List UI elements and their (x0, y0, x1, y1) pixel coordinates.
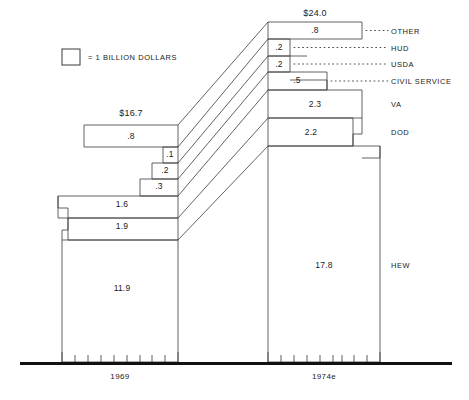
value-1969-hew: 11.9 (114, 283, 131, 293)
value-1969-dod: 1.9 (116, 221, 128, 231)
step-connector-1974-a (353, 118, 362, 146)
category-label-civil-service: CIVIL SERVICE (391, 77, 452, 86)
value-1974-other: .8 (311, 25, 319, 35)
legend-swatch-icon (62, 49, 80, 65)
total-1974: $24.0 (303, 8, 327, 18)
category-label-hud: HUD (391, 44, 409, 53)
value-1969-usda: .2 (161, 165, 169, 175)
connector-hud (178, 39, 268, 147)
bar-1969-hew (62, 240, 178, 362)
value-1969-hud: .1 (166, 149, 174, 159)
value-1974-hew: 17.8 (315, 260, 332, 270)
total-1969: $16.7 (119, 108, 143, 118)
category-label-va: VA (391, 100, 402, 109)
value-1969-va: 1.6 (116, 199, 128, 209)
category-label-other: OTHER (391, 27, 420, 36)
chart-container: = 1 BILLION DOLLARS $16.7 $24.0 .8 .1 .2… (0, 0, 469, 400)
value-1974-hud: .2 (275, 42, 283, 52)
category-label-usda: USDA (391, 60, 414, 69)
connector-civil-service (178, 72, 268, 179)
step-connector-1969-b (58, 196, 68, 218)
category-label-hew: HEW (391, 261, 410, 270)
axis-ticks (62, 352, 380, 362)
axis-label-1969: 1969 (110, 372, 129, 381)
step-connector-1974-d (362, 146, 380, 158)
value-1969-other: .8 (127, 131, 135, 141)
value-1974-va: 2.3 (309, 99, 321, 109)
value-1974-usda: .2 (275, 59, 283, 69)
category-label-dod: DOD (391, 128, 409, 137)
bar-1974-hew (268, 146, 380, 362)
step-connector-1969-a (62, 218, 68, 240)
connector-hew (178, 146, 268, 240)
legend-label: = 1 BILLION DOLLARS (88, 53, 177, 62)
value-1974-dod: 2.2 (305, 127, 317, 137)
connector-dod (178, 118, 268, 218)
value-1974-civil-service: .5 (293, 75, 301, 85)
connector-va (178, 90, 268, 196)
value-1969-civil-service: .3 (155, 181, 163, 191)
axis-label-1974: 1974e (312, 372, 336, 381)
